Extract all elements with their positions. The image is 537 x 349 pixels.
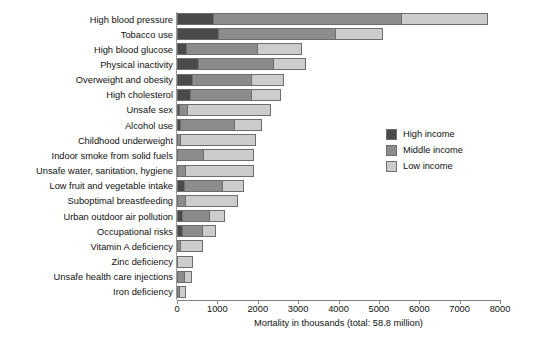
chart-legend: High income Middle income Low income — [386, 128, 463, 176]
legend-item-low-income: Low income — [386, 160, 463, 172]
chart-row: Zinc deficiency — [177, 255, 500, 270]
legend-label-low-income: Low income — [403, 161, 453, 172]
legend-swatch-middle-income-icon — [386, 145, 397, 156]
chart-row: High blood pressure — [177, 12, 500, 27]
legend-swatch-low-income-icon — [386, 161, 397, 172]
bar-segment-low-income[interactable] — [251, 90, 280, 100]
category-label: High cholesterol — [106, 90, 173, 100]
category-label: High blood pressure — [90, 15, 173, 25]
bar-segment-middle-income[interactable] — [178, 196, 185, 206]
bar-segment-middle-income[interactable] — [218, 29, 336, 39]
stacked-bar[interactable] — [177, 210, 225, 222]
chart-row: Unsafe sex — [177, 103, 500, 118]
bar-segment-low-income[interactable] — [257, 44, 301, 54]
category-label: Tobacco use — [121, 30, 173, 40]
bar-segment-high-income[interactable] — [178, 75, 192, 85]
chart-row: Overweight and obesity — [177, 73, 500, 88]
bar-segment-low-income[interactable] — [185, 166, 253, 176]
stacked-bar[interactable] — [177, 43, 302, 55]
bar-segment-high-income[interactable] — [178, 29, 218, 39]
bar-segment-low-income[interactable] — [202, 226, 215, 236]
x-tick-label: 2000 — [247, 304, 268, 315]
bar-segment-low-income[interactable] — [180, 135, 254, 145]
bar-segment-high-income[interactable] — [178, 90, 190, 100]
category-label: Suboptimal breastfeeding — [68, 196, 173, 206]
bar-segment-middle-income[interactable] — [182, 226, 202, 236]
bar-segment-high-income[interactable] — [178, 14, 213, 24]
category-label: Overweight and obesity — [76, 75, 173, 85]
category-label: Indoor smoke from solid fuels — [52, 151, 173, 161]
bar-segment-middle-income[interactable] — [182, 211, 209, 221]
bar-segment-middle-income[interactable] — [186, 44, 257, 54]
bar-segment-middle-income[interactable] — [178, 166, 185, 176]
bar-segment-low-income[interactable] — [273, 59, 305, 69]
bar-segment-middle-income[interactable] — [213, 14, 401, 24]
x-tick-label: 8000 — [490, 304, 511, 315]
legend-label-middle-income: Middle income — [403, 145, 463, 156]
stacked-bar[interactable] — [177, 149, 254, 161]
bar-segment-low-income[interactable] — [401, 14, 487, 24]
chart-row: Tobacco use — [177, 27, 500, 42]
x-tick-label: 0 — [174, 304, 179, 315]
stacked-bar[interactable] — [177, 104, 271, 116]
stacked-bar[interactable] — [177, 74, 284, 86]
stacked-bar[interactable] — [177, 134, 256, 146]
stacked-bar[interactable] — [177, 58, 306, 70]
x-tick-label: 4000 — [328, 304, 349, 315]
bar-segment-low-income[interactable] — [335, 29, 382, 39]
legend-item-middle-income: Middle income — [386, 144, 463, 156]
bar-segment-low-income[interactable] — [180, 241, 201, 251]
stacked-bar[interactable] — [177, 256, 193, 268]
bar-segment-middle-income[interactable] — [190, 90, 251, 100]
stacked-bar[interactable] — [177, 286, 186, 298]
category-label: Urban outdoor air pollution — [63, 212, 173, 222]
category-label: Physical inactivity — [100, 60, 173, 70]
bar-segment-middle-income[interactable] — [198, 59, 273, 69]
bar-segment-low-income[interactable] — [178, 257, 192, 267]
stacked-bar[interactable] — [177, 271, 192, 283]
category-label: Zinc deficiency — [112, 257, 174, 267]
bar-segment-low-income[interactable] — [234, 120, 260, 130]
stacked-bar[interactable] — [177, 13, 488, 25]
legend-label-high-income: High income — [403, 129, 455, 140]
bar-segment-high-income[interactable] — [178, 59, 198, 69]
category-label: Unsafe sex — [126, 105, 173, 115]
bar-segment-low-income[interactable] — [251, 75, 283, 85]
bar-segment-middle-income[interactable] — [179, 105, 187, 115]
stacked-bar[interactable] — [177, 225, 216, 237]
x-tick-label: 1000 — [207, 304, 228, 315]
bar-segment-low-income[interactable] — [179, 287, 185, 297]
x-tick-label: 5000 — [369, 304, 390, 315]
category-label: Low fruit and vegetable intake — [49, 181, 173, 191]
bar-segment-low-income[interactable] — [184, 272, 190, 282]
chart-row: Urban outdoor air pollution — [177, 209, 500, 224]
bar-segment-middle-income[interactable] — [184, 181, 221, 191]
bar-segment-low-income[interactable] — [185, 196, 236, 206]
stacked-bar[interactable] — [177, 180, 244, 192]
stacked-bar[interactable] — [177, 89, 281, 101]
category-label: Occupational risks — [97, 227, 173, 237]
bar-segment-middle-income[interactable] — [180, 120, 234, 130]
bar-segment-low-income[interactable] — [187, 105, 270, 115]
x-axis-title: Mortality in thousands (total: 58.8 mill… — [177, 318, 500, 328]
stacked-bar[interactable] — [177, 240, 203, 252]
stacked-bar[interactable] — [177, 28, 383, 40]
bar-segment-low-income[interactable] — [222, 181, 244, 191]
stacked-bar[interactable] — [177, 165, 254, 177]
chart-row: Iron deficiency — [177, 285, 500, 300]
category-label: Iron deficiency — [113, 287, 173, 297]
x-tick-label: 3000 — [288, 304, 309, 315]
bar-segment-low-income[interactable] — [203, 150, 253, 160]
chart-row: Occupational risks — [177, 224, 500, 239]
stacked-bar[interactable] — [177, 119, 262, 131]
chart-row: Suboptimal breastfeeding — [177, 194, 500, 209]
chart-row: High cholesterol — [177, 88, 500, 103]
chart-row: Physical inactivity — [177, 57, 500, 72]
bar-segment-middle-income[interactable] — [192, 75, 251, 85]
chart-row: Low fruit and vegetable intake — [177, 179, 500, 194]
bar-segment-middle-income[interactable] — [178, 150, 203, 160]
chart-row: Vitamin A deficiency — [177, 239, 500, 254]
stacked-bar[interactable] — [177, 195, 238, 207]
bar-segment-high-income[interactable] — [178, 44, 186, 54]
bar-segment-low-income[interactable] — [209, 211, 224, 221]
